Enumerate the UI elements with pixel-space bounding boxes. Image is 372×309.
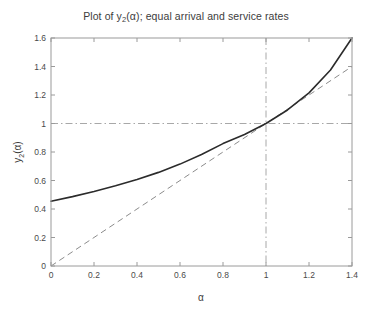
y-tick-label: 0.4 — [34, 204, 46, 214]
y-tick-label: 0 — [41, 261, 46, 271]
y-tick-label: 0.8 — [34, 147, 46, 157]
y-tick-label: 1.2 — [34, 90, 46, 100]
y-tick-label: 1.6 — [34, 33, 46, 43]
x-tick-label: 1 — [264, 270, 269, 280]
x-tick-label: 0.6 — [174, 270, 186, 280]
y-axis-label-group: y2(α) — [12, 141, 25, 162]
plot-area: 00.20.40.60.811.21.4 00.20.40.60.811.21.… — [0, 0, 372, 309]
y-tick-label: 0.2 — [34, 233, 46, 243]
x-tick-label: 1.2 — [303, 270, 315, 280]
y-tick-label: 0.6 — [34, 176, 46, 186]
x-tick-label: 0 — [49, 270, 54, 280]
y-tick-label: 1 — [41, 119, 46, 129]
x-tick-label: 1.4 — [346, 270, 358, 280]
plot-background — [51, 38, 352, 266]
x-tick-label: 0.8 — [217, 270, 229, 280]
x-axis-label: α — [198, 292, 204, 303]
x-tick-label: 0.2 — [88, 270, 100, 280]
y-axis-label: y2(α) — [12, 141, 25, 162]
y-tick-label: 1.4 — [34, 62, 46, 72]
figure-canvas: Plot of y2(α); equal arrival and service… — [0, 0, 372, 309]
x-tick-label: 0.4 — [131, 270, 143, 280]
